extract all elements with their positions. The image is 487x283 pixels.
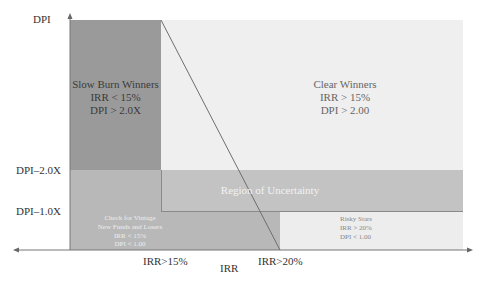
risky-stars-irr: IRR > 20% [340,224,400,233]
clear-winners-irr: IRR > 15% [265,91,425,104]
x-axis-left-arrow-icon [13,248,19,253]
vintage-dpi: DPI < 1.00 [70,240,190,249]
clear-winners-dpi: DPI > 2.00 [265,104,425,117]
y-tick-dpi-2x: DPI–2.0X [16,164,61,176]
vintage-label: Check for Vintage New Funds and Losers I… [70,214,190,249]
clear-winners-label: Clear Winners IRR > 15% DPI > 2.00 [265,78,425,118]
vintage-title: Check for Vintage [70,214,190,223]
slow-burn-winners-label: Slow Burn Winners IRR < 15% DPI > 2.0X [70,78,161,118]
slow-burn-irr: IRR < 15% [70,91,161,104]
slow-burn-title: Slow Burn Winners [70,78,161,91]
uncertainty-label: Region of Uncertainty [200,184,340,197]
risky-stars-dpi: DPI < 1.00 [340,233,400,242]
y-axis-arrow-icon [68,13,73,19]
x-axis-right-arrow-icon [467,248,473,253]
x-axis-title: IRR [220,262,238,274]
uncertainty-title: Region of Uncertainty [200,184,340,197]
vintage-subtitle: New Funds and Losers [70,223,190,232]
x-tick-irr-20: IRR>20% [258,255,303,267]
y-axis-title: DPI [33,13,51,25]
x-tick-irr-15: IRR>15% [143,255,188,267]
y-tick-dpi-1x: DPI–1.0X [16,205,61,217]
risky-stars-title: Risky Stars [340,215,400,224]
clear-winners-title: Clear Winners [265,78,425,91]
vintage-irr: IRR < 15% [70,232,190,241]
risky-stars-label: Risky Stars IRR > 20% DPI < 1.00 [340,215,400,242]
slow-burn-dpi: DPI > 2.0X [70,104,161,117]
